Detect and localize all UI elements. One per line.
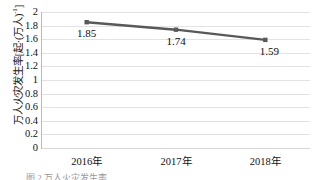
data-point-marker (174, 27, 178, 31)
data-point-label: 1.59 (260, 45, 279, 57)
x-axis-tick-label: 2017年 (136, 155, 216, 169)
fire-incidence-rate-line-chart: 万人火灾发生率[起·(万人)-1] 21.81.61.41.210.80.60.… (0, 0, 319, 180)
y-axis-tick-label: 0 (4, 143, 38, 153)
data-point-label: 1.74 (166, 35, 185, 47)
plot-area: 1.851.741.59 (42, 12, 310, 148)
y-axis-tick-label: 0.6 (4, 102, 38, 112)
gridline (42, 148, 310, 149)
y-axis-tick-label: 1.8 (4, 21, 38, 31)
x-axis-tick-label: 2018年 (225, 155, 305, 169)
y-axis-tick-label: 1.6 (4, 34, 38, 44)
data-point-label: 1.85 (77, 27, 96, 39)
data-point-marker (263, 38, 267, 42)
data-point-marker (84, 20, 88, 24)
y-axis-tick-labels: 21.81.61.41.210.80.60.40.20 (0, 12, 38, 148)
y-axis-tick-label: 0.2 (4, 129, 38, 139)
y-axis-tick-label: 0.8 (4, 89, 38, 99)
y-axis-tick-label: 1.4 (4, 48, 38, 58)
figure-caption-fragment: 图 2 万人火灾发生率 (26, 173, 226, 180)
y-axis-tick-label: 1.2 (4, 61, 38, 71)
y-axis-tick-label: 0.4 (4, 116, 38, 126)
y-axis-tick-label: 1 (4, 75, 38, 85)
y-axis-tick-label: 2 (4, 7, 38, 17)
x-axis-tick-labels: 2016年2017年2018年 (42, 155, 310, 171)
x-axis-tick-label: 2016年 (47, 155, 127, 169)
